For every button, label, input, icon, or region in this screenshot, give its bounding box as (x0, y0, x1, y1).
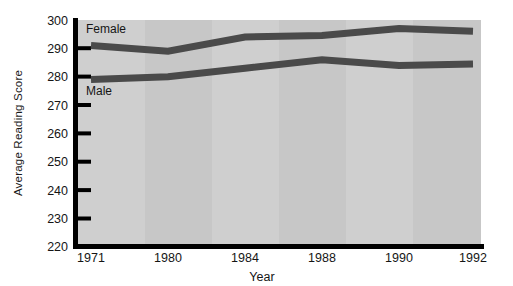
y-tick-270 (78, 103, 91, 107)
y-tick-230 (78, 217, 91, 221)
y-tick-label-220: 220 (47, 240, 68, 254)
y-tick-label-230: 230 (47, 212, 68, 226)
y-axis-title: Average Reading Score (12, 70, 24, 196)
x-tick-label-1984: 1984 (231, 251, 259, 265)
background-bands (145, 20, 481, 247)
chart-figure: 300 290 280 270 260 250 240 230 220 Aver… (0, 0, 513, 286)
band-2 (279, 20, 346, 247)
x-tick-label-1971: 1971 (77, 251, 105, 265)
reading-score-line-chart: 300 290 280 270 260 250 240 230 220 Aver… (0, 0, 513, 286)
band-1 (145, 20, 212, 247)
x-tick-label-1980: 1980 (154, 251, 182, 265)
y-tick-280 (78, 75, 91, 79)
x-tick-labels: 1971 1980 1984 1988 1990 1992 (77, 251, 487, 265)
y-tick-label-240: 240 (47, 184, 68, 198)
y-tick-label-300: 300 (47, 14, 68, 28)
series-label-male: Male (86, 84, 112, 98)
y-tick-260 (78, 131, 91, 135)
y-tick-label-270: 270 (47, 99, 68, 113)
y-tick-290 (78, 46, 91, 50)
x-axis-line (73, 244, 484, 249)
band-3 (413, 20, 481, 247)
y-tick-label-250: 250 (47, 155, 68, 169)
y-tick-label-290: 290 (47, 42, 68, 56)
x-tick-label-1992: 1992 (459, 251, 487, 265)
x-tick-label-1990: 1990 (385, 251, 413, 265)
y-tick-label-280: 280 (47, 70, 68, 84)
y-tick-240 (78, 188, 91, 192)
y-axis-line (73, 18, 78, 249)
y-tick-labels: 300 290 280 270 260 250 240 230 220 (47, 14, 68, 255)
y-tick-250 (78, 160, 91, 164)
y-tick-label-260: 260 (47, 127, 68, 141)
x-tick-label-1988: 1988 (308, 251, 336, 265)
series-label-female: Female (86, 22, 126, 36)
x-axis-title: Year (249, 270, 274, 284)
